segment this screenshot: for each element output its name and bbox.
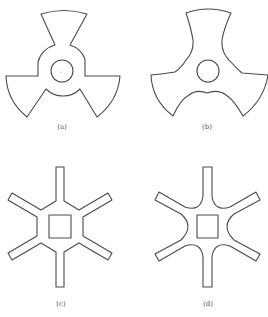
panel-a-shape	[6, 11, 120, 118]
panel-a-center-dot	[60, 71, 61, 72]
panel-c-square-hole	[49, 215, 71, 238]
figure-canvas	[0, 0, 268, 317]
panel-b-bore	[197, 60, 219, 82]
panel-b-shape	[151, 9, 268, 116]
panel-d-shape	[155, 167, 260, 287]
panel-d-label: (d)	[193, 300, 223, 308]
panel-c-shape	[8, 167, 112, 287]
panel-a-label: (a)	[47, 123, 77, 131]
panel-d-square-hole	[197, 215, 218, 238]
panel-b-label: (b)	[192, 123, 222, 131]
panel-c-label: (c)	[46, 300, 76, 308]
panel-a-bore	[51, 60, 73, 82]
